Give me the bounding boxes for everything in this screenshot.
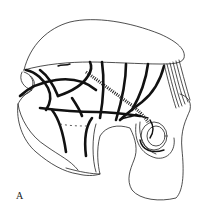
line-drawing (0, 0, 203, 212)
upper-lobe-outline (24, 20, 184, 70)
striated-region (164, 60, 190, 108)
coiled-structure (136, 120, 175, 158)
panel-label: A (16, 190, 23, 201)
illustration-figure: A (0, 0, 203, 212)
